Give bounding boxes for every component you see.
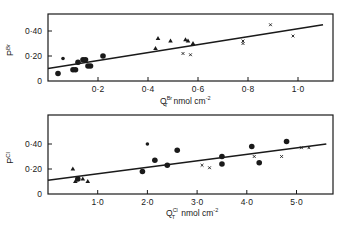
triangle-marker [80,176,85,180]
circle-marker [152,157,158,163]
x-tick-label: 0·2 [92,84,105,94]
top-axis-ticks: 0·20·40·60·81·000·200·40 [25,26,304,94]
y-tick-label: 0·20 [25,51,42,61]
x-tick-label: 1·0 [292,84,305,94]
circle-marker [88,63,94,69]
y-tick-label: 0 [37,189,42,199]
triangle-marker [168,38,173,42]
x-tick-label: 0·6 [192,84,205,94]
bottom-plot-frame [48,115,333,194]
triangle-marker [156,36,161,40]
triangle-marker [71,166,76,170]
bottom-panel: 1·02·03·04·05·000·200·40 PCl QClTnmol cm… [5,115,333,220]
circle-marker [55,71,61,77]
y-tick-label: 0·40 [25,26,42,36]
y-tick-label: 0·20 [25,164,42,174]
bottom-ylabel: PCl [5,152,15,164]
top-fit-line [48,25,323,69]
circle-marker [249,144,255,150]
cross-marker [189,53,192,56]
circle-marker [256,160,262,166]
cross-marker [253,155,256,158]
top-panel: 0·20·40·60·81·000·200·40 PBr QBrTnmol cm… [5,14,333,108]
circle-marker [174,147,180,153]
cross-marker [269,23,272,26]
bottom-axis-ticks: 1·02·03·04·05·000·200·40 [25,139,303,207]
triangle-marker [153,46,158,50]
x-tick-label: 4·0 [241,197,254,207]
cross-marker [292,35,295,38]
x-tick-label: 5·0 [290,197,303,207]
x-tick-label: 0·8 [242,84,255,94]
circle-marker [140,169,146,175]
cross-marker [201,164,204,167]
bottom-xlabel: QClTnmol cm-2 [166,207,218,220]
y-tick-label: 0 [37,76,42,86]
circle-marker [100,53,106,59]
x-tick-label: 0·4 [142,84,155,94]
x-tick-label: 3·0 [191,197,204,207]
cross-marker [280,155,283,158]
circle-marker [219,161,225,167]
figure: 0·20·40·60·81·000·200·40 PBr QBrTnmol cm… [0,0,349,226]
circle-marker [73,67,79,73]
cross-marker [182,52,185,55]
top-xlabel: QBrTnmol cm-2 [160,95,211,108]
bottom-fit-line [48,144,326,180]
top-data-points [55,23,294,76]
circle-marker [284,139,290,145]
cross-marker [208,166,211,169]
y-tick-label: 0·40 [25,139,42,149]
x-tick-label: 1·0 [92,197,105,207]
top-ylabel: PBr [5,44,15,56]
cross-marker [242,40,245,43]
dot-marker [61,57,65,61]
triangle-marker [85,179,90,183]
top-plot-frame [48,14,333,81]
x-tick-label: 2·0 [141,197,154,207]
dot-marker [146,142,150,146]
